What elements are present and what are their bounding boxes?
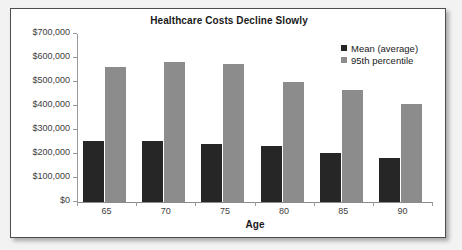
bar-mean (379, 158, 400, 202)
y-tick-label: $100,000 (32, 171, 70, 181)
bar-mean (261, 146, 282, 202)
x-axis-title: Age (77, 219, 433, 230)
legend-swatch-mean (341, 45, 347, 51)
legend-label-mean: Mean (average) (351, 43, 418, 54)
x-tick-mark (432, 202, 433, 206)
legend-entry-mean: Mean (average) (341, 42, 418, 54)
bar-mean (320, 153, 341, 202)
x-tick-label: 65 (77, 206, 136, 216)
y-tick-label: $200,000 (32, 147, 70, 157)
x-tick-label: 70 (136, 206, 195, 216)
chart-title: Healthcare Costs Decline Slowly (11, 15, 447, 26)
y-tick-label: $400,000 (32, 99, 70, 109)
bar-group (136, 34, 195, 202)
bar-p95 (342, 90, 363, 202)
x-tick-label: 85 (314, 206, 373, 216)
bar-mean (201, 144, 222, 202)
bar-group (195, 34, 254, 202)
bar-p95 (223, 64, 244, 202)
legend-swatch-p95 (341, 57, 347, 63)
bar-group (255, 34, 314, 202)
x-tick-label: 75 (195, 206, 254, 216)
bar-p95 (105, 67, 126, 202)
bar-mean (142, 141, 163, 202)
legend-entry-p95: 95th percentile (341, 54, 418, 66)
bar-p95 (164, 62, 185, 202)
y-tick-label: $600,000 (32, 51, 70, 61)
bar-mean (83, 141, 104, 202)
x-tick-label: 80 (255, 206, 314, 216)
bar-group (77, 34, 136, 202)
y-tick-label: $0 (60, 195, 70, 205)
chart-legend: Mean (average) 95th percentile (341, 42, 418, 66)
chart-figure: Healthcare Costs Decline Slowly $0$100,0… (10, 8, 446, 238)
bar-p95 (283, 82, 304, 202)
y-tick-label: $300,000 (32, 123, 70, 133)
legend-label-p95: 95th percentile (351, 55, 413, 66)
y-tick-label: $500,000 (32, 75, 70, 85)
x-tick-label: 90 (373, 206, 432, 216)
bar-p95 (401, 104, 422, 202)
y-tick-label: $700,000 (32, 27, 70, 37)
